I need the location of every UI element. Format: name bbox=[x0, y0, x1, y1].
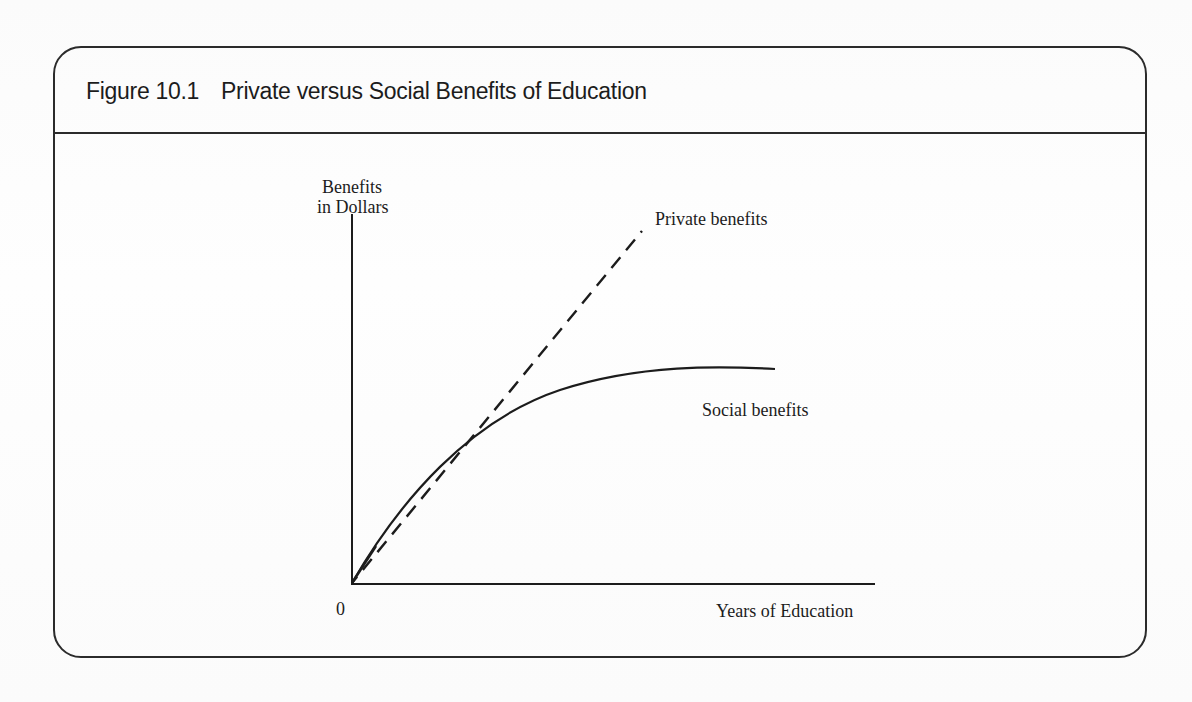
x-axis-label: Years of Education bbox=[716, 600, 853, 622]
social-benefits-label: Social benefits bbox=[702, 399, 808, 421]
origin-label: 0 bbox=[336, 598, 345, 620]
private-benefits-line bbox=[352, 231, 642, 583]
benefits-diagram bbox=[0, 0, 1192, 702]
y-axis-label-line2: in Dollars bbox=[317, 196, 389, 218]
y-axis-label-line1: Benefits bbox=[322, 176, 382, 198]
private-benefits-label: Private benefits bbox=[655, 208, 767, 230]
